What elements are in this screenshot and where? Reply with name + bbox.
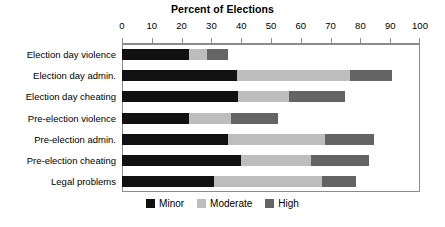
bar-segment-minor — [122, 134, 228, 145]
bar-segment-high — [350, 70, 392, 81]
x-tick-label: 30 — [206, 20, 217, 31]
legend-item[interactable]: Moderate — [197, 198, 252, 209]
legend-swatch-icon — [265, 199, 274, 208]
bar-row — [122, 134, 420, 145]
x-tick-label: 0 — [119, 20, 124, 31]
bar-segment-high — [322, 176, 356, 187]
bar-segment-high — [325, 134, 374, 145]
chart-legend: MinorModerateHigh — [0, 198, 445, 209]
legend-swatch-icon — [146, 199, 155, 208]
bar-segment-moderate — [241, 155, 311, 166]
category-label: Election day admin. — [0, 70, 116, 81]
bar-segment-minor — [122, 91, 238, 102]
legend-item[interactable]: High — [265, 198, 299, 209]
x-tick-label: 100 — [412, 20, 428, 31]
bar-row — [122, 176, 420, 187]
category-label: Election day violence — [0, 49, 116, 60]
category-label: Pre-election admin. — [0, 134, 116, 145]
legend-label: High — [278, 198, 299, 209]
bar-segment-minor — [122, 113, 189, 124]
bar-segment-moderate — [189, 113, 231, 124]
legend-label: Moderate — [210, 198, 252, 209]
bar-segment-minor — [122, 155, 241, 166]
x-tick-label: 60 — [296, 20, 307, 31]
category-label: Pre-election violence — [0, 113, 116, 124]
bar-segment-minor — [122, 176, 214, 187]
bar-row — [122, 113, 420, 124]
x-tick-label: 70 — [325, 20, 336, 31]
bar-segment-high — [207, 49, 228, 60]
bar-segment-moderate — [189, 49, 207, 60]
bar-segment-moderate — [237, 70, 350, 81]
x-tick-label: 50 — [266, 20, 277, 31]
bar-segment-moderate — [228, 134, 325, 145]
legend-swatch-icon — [197, 199, 206, 208]
legend-label: Minor — [159, 198, 184, 209]
legend-item[interactable]: Minor — [146, 198, 184, 209]
category-label: Pre-election cheating — [0, 155, 116, 166]
category-label: Election day cheating — [0, 91, 116, 102]
bar-segment-minor — [122, 49, 189, 60]
bar-row — [122, 49, 420, 60]
category-axis-labels: Election day violenceElection day admin.… — [0, 44, 116, 192]
x-tick-label: 80 — [355, 20, 366, 31]
x-tick-label: 10 — [147, 20, 158, 31]
x-tick-label: 20 — [176, 20, 187, 31]
chart-title: Percent of Elections — [0, 3, 445, 15]
x-axis-ticks: 0102030405060708090100 — [122, 20, 420, 44]
bars-layer — [122, 44, 420, 192]
x-tick-label: 90 — [385, 20, 396, 31]
category-label: Legal problems — [0, 176, 116, 187]
bar-segment-high — [289, 91, 346, 102]
bar-row — [122, 91, 420, 102]
bar-segment-high — [231, 113, 279, 124]
x-tick-label: 40 — [236, 20, 247, 31]
stacked-bar-chart: Percent of Elections 0102030405060708090… — [0, 0, 445, 227]
bar-segment-moderate — [214, 176, 321, 187]
bar-segment-minor — [122, 70, 237, 81]
bar-segment-moderate — [238, 91, 289, 102]
bar-row — [122, 70, 420, 81]
bar-row — [122, 155, 420, 166]
bar-segment-high — [311, 155, 369, 166]
